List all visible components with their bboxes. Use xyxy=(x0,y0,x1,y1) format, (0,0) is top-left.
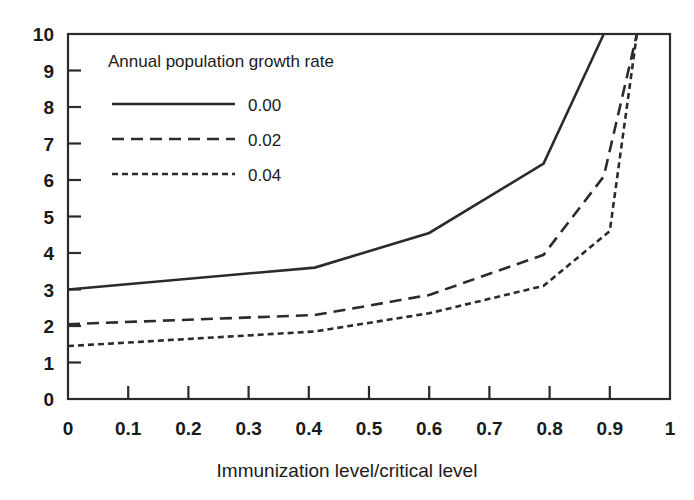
y-tick-label: 3 xyxy=(43,280,54,301)
y-tick-label: 4 xyxy=(43,243,54,264)
y-tick-label: 6 xyxy=(43,170,54,191)
x-tick-label: 0 xyxy=(63,418,74,439)
chart-background xyxy=(0,0,694,500)
x-tick-label: 0.8 xyxy=(536,418,562,439)
x-tick-label: 0.4 xyxy=(296,418,323,439)
x-tick-label: 1 xyxy=(665,418,676,439)
legend-label-0.02: 0.02 xyxy=(248,131,281,150)
y-tick-label: 8 xyxy=(43,97,54,118)
legend-label-0.04: 0.04 xyxy=(248,166,281,185)
x-tick-label: 0.2 xyxy=(175,418,201,439)
y-tick-label: 9 xyxy=(43,61,54,82)
y-tick-label: 7 xyxy=(43,134,54,155)
chart-canvas: 012345678910 00.10.20.30.40.50.60.70.80.… xyxy=(0,0,694,500)
y-tick-label: 2 xyxy=(43,316,54,337)
x-tick-label: 0.7 xyxy=(476,418,502,439)
x-tick-label: 0.5 xyxy=(356,418,383,439)
y-tick-label: 1 xyxy=(43,353,54,374)
y-tick-label: 10 xyxy=(33,24,54,45)
x-tick-label: 0.1 xyxy=(115,418,142,439)
legend-title: Annual population growth rate xyxy=(108,52,334,71)
x-axis-title: Immunization level/critical level xyxy=(217,460,478,481)
x-tick-label: 0.6 xyxy=(416,418,442,439)
legend-label-0.00: 0.00 xyxy=(248,96,281,115)
x-tick-label: 0.3 xyxy=(235,418,261,439)
x-tick-label: 0.9 xyxy=(597,418,623,439)
chart-figure: 012345678910 00.10.20.30.40.50.60.70.80.… xyxy=(0,0,694,500)
y-tick-label: 0 xyxy=(43,389,54,410)
y-tick-label: 5 xyxy=(43,207,54,228)
